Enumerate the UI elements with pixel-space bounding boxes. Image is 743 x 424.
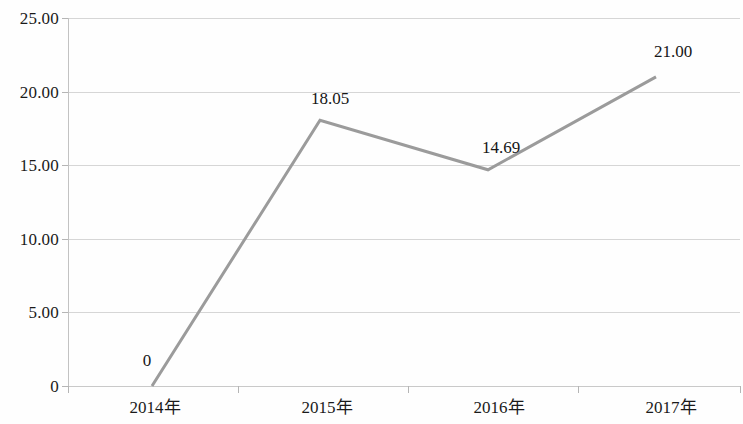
data-label-2014: 0 xyxy=(92,351,202,371)
y-axis-label-5: 5.00 xyxy=(0,303,59,323)
y-axis-labels: 25.00 20.00 15.00 10.00 5.00 0 xyxy=(0,0,59,424)
data-label-2017: 21.00 xyxy=(618,42,728,62)
plot-area xyxy=(68,18,740,386)
y-tick-5 xyxy=(62,312,68,313)
data-label-2016: 14.69 xyxy=(446,138,556,158)
x-axis-label-2014: 2014年 xyxy=(85,393,225,418)
gridline-0-baseline xyxy=(68,386,740,387)
y-axis-label-10: 10.00 xyxy=(0,230,59,250)
data-label-2015: 18.05 xyxy=(275,89,385,109)
y-axis-line xyxy=(68,18,69,388)
gridline-10 xyxy=(68,239,740,240)
y-tick-20 xyxy=(62,92,68,93)
gridline-15 xyxy=(68,165,740,166)
gridline-20 xyxy=(68,92,740,93)
y-tick-15 xyxy=(62,165,68,166)
y-tick-10 xyxy=(62,239,68,240)
x-tick-1 xyxy=(238,386,239,393)
x-tick-end xyxy=(740,386,741,393)
y-axis-label-0: 0 xyxy=(0,377,59,397)
x-axis-label-2016: 2016年 xyxy=(429,393,569,418)
y-axis-label-15: 15.00 xyxy=(0,156,59,176)
line-chart-figure: 25.00 20.00 15.00 10.00 5.00 0 2014年 201… xyxy=(0,0,743,424)
x-tick-3 xyxy=(578,386,579,393)
y-tick-25 xyxy=(62,18,68,19)
x-axis-label-2015: 2015年 xyxy=(257,393,397,418)
y-axis-label-20: 20.00 xyxy=(0,83,59,103)
x-axis-label-2017: 2017年 xyxy=(601,393,741,418)
gridline-5 xyxy=(68,312,740,313)
y-axis-label-25: 25.00 xyxy=(0,9,59,29)
x-tick-2 xyxy=(408,386,409,393)
gridline-25 xyxy=(68,18,740,19)
x-tick-start xyxy=(68,386,69,393)
